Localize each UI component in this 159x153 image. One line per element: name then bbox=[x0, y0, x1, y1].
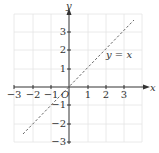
x-tick-label: 2 bbox=[103, 89, 109, 100]
y-tick-label: −2 bbox=[51, 118, 66, 129]
line-annotation: y = x bbox=[105, 49, 132, 60]
x-tick-label: −2 bbox=[26, 89, 41, 100]
origin-label: O bbox=[61, 89, 69, 100]
y-tick-label: 3 bbox=[60, 26, 66, 37]
y-axis-label: y bbox=[65, 0, 72, 11]
coordinate-plane: −3 −2 −1 1 2 3 3 2 1 −1 −2 −3 O x y y = … bbox=[0, 0, 159, 153]
x-tick-label: 3 bbox=[121, 89, 127, 100]
y-tick-label: 1 bbox=[60, 63, 66, 74]
x-axis-arrow-icon bbox=[143, 85, 150, 90]
y-tick-label: 2 bbox=[60, 44, 66, 55]
y-tick-label: −3 bbox=[51, 136, 66, 147]
x-axis-label: x bbox=[150, 82, 156, 93]
line-y-equals-x bbox=[23, 20, 134, 134]
x-tick-label: 1 bbox=[85, 89, 91, 100]
y-tick-label: −1 bbox=[51, 99, 66, 110]
x-tick-label: −3 bbox=[7, 89, 22, 100]
